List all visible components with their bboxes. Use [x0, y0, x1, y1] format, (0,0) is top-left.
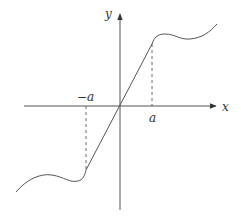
- tick-label-neg-a: −a: [77, 90, 94, 104]
- tick-label-pos-a: a: [149, 111, 156, 125]
- function-graph: y x −a a: [0, 0, 241, 222]
- x-axis-label: x: [222, 100, 229, 114]
- function-curve: [16, 24, 217, 192]
- y-axis-label: y: [104, 7, 112, 21]
